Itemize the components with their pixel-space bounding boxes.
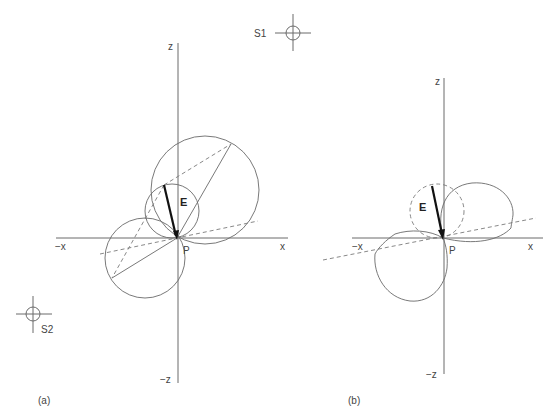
z-pos-label-b: z [435,76,440,87]
e-label-b: E [419,201,426,213]
e-vector-a [164,185,176,236]
p-label-a: P [183,245,190,256]
chord-lower [112,238,177,278]
panel-b: z −z −x x E P (b) [323,76,543,406]
upper-right-lobe [441,183,513,242]
e-vector-b [432,186,442,234]
source-s1: S1 [254,14,311,51]
diagram-canvas: z −z −x x E P S1 S2 [0,0,550,417]
dashed-oblique-line [323,218,536,260]
chord-upper [177,144,231,238]
x-pos-label-b: x [528,241,533,252]
e-label-a: E [180,196,187,208]
dashed-line-upper [164,144,231,185]
x-pos-label-a: x [280,241,285,252]
caption-a: (a) [38,395,50,406]
panel-a: z −z −x x E P S1 S2 [16,14,311,406]
small-circle [145,184,199,238]
s1-label: S1 [254,28,267,39]
z-neg-label-b: −z [426,369,437,380]
p-label-b: P [449,245,456,256]
dashed-line-left [112,185,164,278]
x-neg-label-b: −x [352,241,363,252]
source-s2: S2 [16,296,54,335]
x-neg-label-a: −x [55,241,66,252]
lower-left-lobe [375,231,447,301]
z-neg-label-a: −z [160,374,171,385]
s2-label: S2 [41,324,54,335]
caption-b: (b) [348,395,360,406]
z-pos-label-a: z [168,41,173,52]
